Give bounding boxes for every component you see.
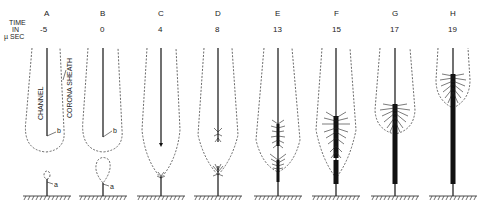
svg-text:F: F [334,9,339,18]
panel-d [194,48,242,200]
svg-text:G: G [392,9,398,18]
svg-text:-5: -5 [40,25,48,34]
svg-text:15: 15 [332,25,341,34]
svg-text:0: 0 [100,25,105,34]
svg-text:4: 4 [158,25,163,34]
svg-text:8: 8 [215,25,220,34]
svg-text:b: b [57,127,61,134]
svg-text:19: 19 [448,25,457,34]
panel-c [137,48,185,200]
panel-headers: A -5 B 0 C 4 D 8 E 13 F 15 G 17 H 19 [40,9,457,34]
svg-text:D: D [215,9,221,18]
svg-text:C: C [158,9,164,18]
panel-e [254,48,302,200]
time-axis-label: TIME IN µ SEC [4,19,26,41]
svg-text:CHANNEL: CHANNEL [37,86,44,120]
panel-h [429,48,477,200]
panel-a: b CHANNEL CORONA SHEATH a [23,48,73,200]
svg-text:a: a [54,181,58,188]
svg-text:µ SEC: µ SEC [4,33,24,41]
panel-f [312,48,360,200]
panel-b: b a [79,48,127,200]
svg-text:17: 17 [390,25,399,34]
panel-g [371,48,419,200]
svg-text:13: 13 [273,25,282,34]
svg-text:H: H [450,9,456,18]
svg-text:A: A [44,9,50,18]
svg-text:IN: IN [12,26,19,33]
svg-text:CORONA SHEATH: CORONA SHEATH [66,58,73,118]
lightning-stroke-diagram: TIME IN µ SEC A -5 B 0 C 4 D 8 E 13 F 15… [0,0,493,213]
svg-text:B: B [100,9,105,18]
svg-text:b: b [113,127,117,134]
svg-text:TIME: TIME [9,19,26,26]
svg-text:a: a [110,183,114,190]
svg-text:E: E [275,9,280,18]
